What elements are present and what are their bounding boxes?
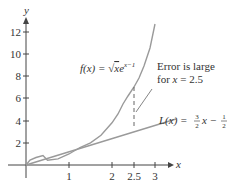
y-tick-label: 10 — [10, 48, 22, 60]
svg-text:2: 2 — [195, 122, 199, 130]
x-tick-label: 2.5 — [127, 170, 141, 182]
error-pointer — [136, 89, 152, 112]
y-tick-label: 12 — [10, 26, 21, 38]
y-tick-label: 8 — [16, 70, 22, 82]
svg-text:2: 2 — [222, 122, 226, 130]
f-curve — [26, 24, 155, 165]
svg-text:1: 1 — [222, 113, 226, 121]
y-tick-label: 2 — [16, 137, 22, 149]
y-tick-labels: 12 10 8 6 4 2 — [10, 26, 22, 149]
x-axis-label: x — [175, 158, 181, 170]
L-label: L(x) = 3 2 x − 1 2 — [158, 113, 227, 130]
y-tick-label: 6 — [16, 92, 22, 104]
chart: 12 10 8 6 4 2 1 2 2.5 3 y x f(x) = √xex−… — [0, 0, 231, 191]
error-label-line2: for x = 2.5 — [157, 73, 203, 85]
x-tick-labels: 1 2 2.5 3 — [66, 170, 158, 182]
x-tick-label: 2 — [109, 170, 115, 182]
error-label-line1: Error is large — [157, 60, 215, 72]
tangent-line — [26, 119, 176, 165]
x-tick-label: 1 — [66, 170, 72, 182]
y-axis-arrow-icon — [23, 17, 29, 24]
y-tick-label: 4 — [16, 115, 22, 127]
x-axis-arrow-icon — [168, 162, 174, 168]
y-axis-label: y — [23, 4, 29, 16]
svg-text:x −: x − — [201, 114, 217, 126]
x-tick-label: 3 — [152, 170, 158, 182]
svg-text:3: 3 — [195, 113, 199, 121]
f-label: f(x) = √xex−1 — [80, 61, 135, 75]
svg-text:L(x) =: L(x) = — [158, 114, 188, 127]
